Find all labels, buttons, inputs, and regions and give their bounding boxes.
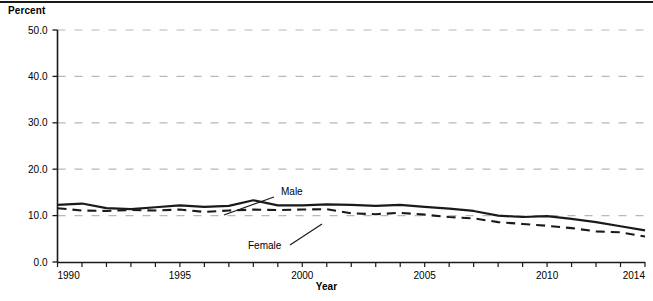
series-annotations-group: MaleFemale [224,186,322,251]
line-chart-plot: 0.010.020.030.040.050.0 1990199520002005… [0,0,653,301]
series-label-male: Male [281,186,303,197]
y-tick-label: 30.0 [28,117,48,128]
series-line-female [58,208,646,236]
y-tick-label: 0.0 [34,257,48,268]
chart-figure: Percent 0.010.020.030.040.050.0 19901995… [0,0,653,301]
x-tick-label: 2000 [291,270,314,281]
x-tick-label: 2010 [536,270,559,281]
x-axis-title: Year [0,281,653,292]
y-tick-label: 10.0 [28,210,48,221]
female-leader-line [290,224,322,245]
gridlines-group [58,30,646,216]
x-axis-tick-labels: 199019952000200520102014 [58,270,646,281]
series-label-female: Female [248,240,282,251]
x-tick-label: 1995 [169,270,192,281]
y-tick-label: 50.0 [28,25,48,36]
y-tick-label: 40.0 [28,71,48,82]
y-axis-tick-labels: 0.010.020.030.040.050.0 [28,25,48,268]
series-lines-group [58,200,646,236]
y-tick-label: 20.0 [28,164,48,175]
x-tick-label: 1990 [58,270,81,281]
x-tick-label: 2005 [414,270,437,281]
x-tick-label: 2014 [623,270,646,281]
